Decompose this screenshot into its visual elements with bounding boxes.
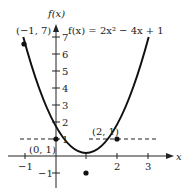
point-neg1-7	[21, 41, 26, 46]
vertex-point	[83, 170, 88, 175]
svg-text:6: 6	[62, 49, 68, 60]
point-label-neg1-7: (−1, 7)	[16, 25, 51, 36]
svg-text:2: 2	[62, 117, 68, 128]
svg-text:−1: −1	[18, 161, 33, 172]
svg-text:3: 3	[62, 100, 68, 111]
point-0-1	[53, 136, 58, 141]
equation-label: f(x) = 2x² − 4x + 1	[68, 25, 164, 36]
point-2-1	[114, 136, 119, 141]
svg-text:5: 5	[62, 66, 68, 77]
parabola-chart: f(x) (−1, 7) f(x) = 2x² − 4x + 1 (0, 1) …	[0, 0, 188, 192]
parabola-curve	[23, 37, 148, 153]
svg-text:2: 2	[114, 161, 120, 172]
point-label-0-1: (0, 1)	[29, 144, 56, 155]
svg-text:−1: −1	[38, 168, 53, 179]
svg-text:7: 7	[62, 32, 68, 43]
point-label-2-1: (2, 1)	[92, 126, 119, 137]
x-axis-arrow-icon	[166, 153, 174, 159]
x-axis-label: x	[176, 151, 182, 162]
svg-text:3: 3	[145, 161, 151, 172]
y-axis-label: f(x)	[47, 8, 65, 19]
svg-text:4: 4	[62, 83, 68, 94]
svg-text:1: 1	[62, 134, 68, 145]
y-axis-arrow-icon	[53, 24, 59, 32]
